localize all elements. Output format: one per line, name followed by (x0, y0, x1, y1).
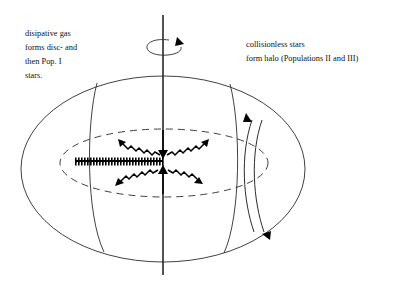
dissipative-gas-note-line-2: forms disc- and (25, 43, 78, 52)
dissipative-gas-note-line-4: stars. (25, 71, 42, 80)
collisionless-stars-note-line-1: collisionless stars (246, 40, 305, 49)
dissipative-gas-note-line-1: disipative gas (25, 29, 71, 38)
collisionless-stars-note-line-2: form halo (Populations II and III) (246, 54, 359, 63)
galaxy-formation-diagram: disipative gas forms disc- and then Pop.… (0, 0, 397, 292)
dissipative-gas-note-line-3: then Pop. I (25, 57, 62, 66)
diagram-canvas: disipative gas forms disc- and then Pop.… (0, 0, 397, 292)
